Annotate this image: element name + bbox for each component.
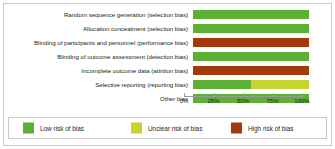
- unclear-risk-swatch: [131, 123, 142, 134]
- x-axis-tick: [184, 93, 185, 97]
- bar-row-label: Other bias: [8, 95, 192, 102]
- bar-row-label: Blinding of participants and personnel (…: [8, 39, 192, 46]
- stacked-bar: [192, 23, 310, 34]
- legend-item: Low risk of bias: [23, 123, 84, 134]
- legend-label: High risk of bias: [248, 124, 293, 132]
- high-risk-swatch: [231, 123, 242, 134]
- low-risk-segment: [193, 80, 251, 89]
- legend-item: Unclear risk of bias: [131, 123, 202, 134]
- x-axis-tick: [302, 93, 303, 97]
- x-axis-tick-label: 0%: [180, 98, 189, 105]
- stacked-bar: [192, 9, 310, 20]
- stacked-bar: [192, 51, 310, 62]
- x-axis-tick: [214, 93, 215, 97]
- low-risk-segment: [193, 52, 309, 61]
- bar-row-label: Blinding of outcome assessment (detectio…: [8, 53, 192, 60]
- legend-label: Unclear risk of bias: [148, 124, 202, 132]
- bar-row: Blinding of outcome assessment (detectio…: [8, 50, 327, 63]
- bar-row-label: Incomplete outcome data (attrition bias): [8, 67, 192, 74]
- x-axis-tick-label: 75%: [266, 98, 278, 105]
- bar-row-label: Random sequence generation (selection bi…: [8, 11, 192, 18]
- low-risk-segment: [193, 24, 309, 33]
- bar-row: Random sequence generation (selection bi…: [8, 8, 327, 21]
- bar-row: Incomplete outcome data (attrition bias): [8, 64, 327, 77]
- legend: Low risk of biasUnclear risk of biasHigh…: [8, 117, 327, 139]
- x-axis-tick: [273, 93, 274, 97]
- bar-row: Allocation concealment (selection bias): [8, 22, 327, 35]
- risk-of-bias-graph: Random sequence generation (selection bi…: [0, 0, 335, 149]
- legend-item: High risk of bias: [231, 123, 293, 134]
- high-risk-segment: [193, 66, 309, 75]
- bar-row: Blinding of participants and personnel (…: [8, 36, 327, 49]
- stacked-bar: [192, 65, 310, 76]
- low-risk-swatch: [23, 123, 34, 134]
- high-risk-segment: [193, 38, 309, 47]
- plot-area: Random sequence generation (selection bi…: [8, 8, 327, 108]
- bar-rows: Random sequence generation (selection bi…: [8, 8, 327, 106]
- unclear-risk-segment: [251, 80, 309, 89]
- bar-row-label: Selective reporting (reporting bias): [8, 81, 192, 88]
- bar-row-label: Allocation concealment (selection bias): [8, 25, 192, 32]
- x-axis-tick-label: 100%: [294, 98, 309, 105]
- stacked-bar: [192, 37, 310, 48]
- bar-row: Selective reporting (reporting bias): [8, 78, 327, 91]
- x-axis: 0%25%50%75%100%: [184, 96, 304, 112]
- x-axis-tick-label: 50%: [237, 98, 249, 105]
- legend-label: Low risk of bias: [40, 124, 84, 132]
- x-axis-tick-label: 25%: [207, 98, 219, 105]
- x-axis-tick: [243, 93, 244, 97]
- stacked-bar: [192, 79, 310, 90]
- low-risk-segment: [193, 10, 309, 19]
